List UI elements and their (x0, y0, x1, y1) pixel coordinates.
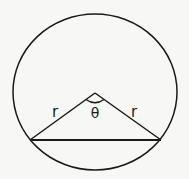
circle (13, 14, 177, 170)
circle-triangle-diagram: θ r r (0, 0, 189, 179)
right-side-label-r: r (131, 103, 138, 121)
left-side-label-r: r (52, 103, 59, 121)
right-radius-line (95, 93, 161, 140)
diagram-canvas: θ r r (0, 0, 189, 179)
angle-arc (86, 100, 104, 103)
left-radius-line (30, 93, 95, 140)
angle-label-theta: θ (91, 105, 100, 121)
